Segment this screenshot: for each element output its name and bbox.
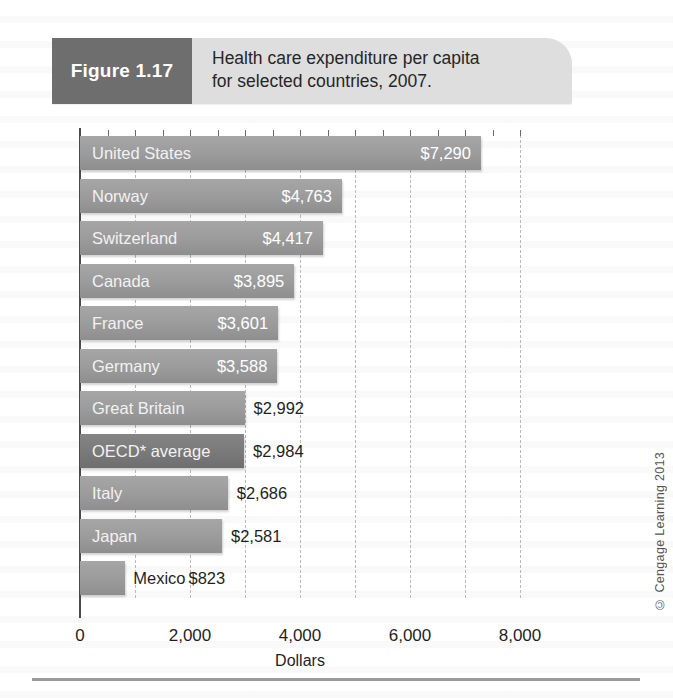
bar-category-label: Switzerland: [92, 221, 177, 255]
bar-row[interactable]: Japan$2,581: [80, 519, 520, 553]
bar-row[interactable]: OECD* average$2,984: [80, 434, 520, 468]
copyright-credit: © Cengage Learning 2013: [653, 452, 667, 611]
bar-value-label: $2,686: [237, 476, 287, 510]
bar-category-label: Italy: [92, 476, 122, 510]
x-tick-label: 0: [75, 626, 84, 646]
bar-category-label: United States: [92, 136, 191, 170]
bar-category-label: France: [92, 306, 143, 340]
x-tick-label: 6,000: [389, 626, 432, 646]
bar-value-label: $3,588: [217, 349, 267, 383]
figure-number-tag: Figure 1.17: [52, 38, 192, 104]
bar-category-label: OECD* average: [92, 434, 210, 468]
bar-category-label: Japan: [92, 519, 137, 553]
figure-container: Figure 1.17 Health care expenditure per …: [0, 0, 673, 698]
x-tick-label: 2,000: [169, 626, 212, 646]
bar-row[interactable]: Great Britain$2,992: [80, 391, 520, 425]
x-axis: 02,0004,0006,0008,000 Dollars: [0, 618, 600, 678]
figure-header: Figure 1.17 Health care expenditure per …: [52, 38, 572, 104]
bar-category-label: Mexico: [133, 561, 185, 595]
bar-row[interactable]: United States$7,290: [80, 136, 520, 170]
bar-category-label: Germany: [92, 349, 160, 383]
x-tick-label: 4,000: [279, 626, 322, 646]
bar-row[interactable]: Germany$3,588: [80, 349, 520, 383]
bar-row[interactable]: Mexico$823: [80, 561, 520, 595]
bar-category-label: Norway: [92, 179, 148, 213]
bar-value-label: $2,581: [231, 519, 281, 553]
x-axis-title: Dollars: [275, 652, 325, 670]
bar-value-label: $2,992: [254, 391, 304, 425]
plot-area: United States$7,290Norway$4,763Switzerla…: [80, 130, 520, 598]
bar-value-label: $2,984: [253, 434, 303, 468]
bar-row[interactable]: Norway$4,763: [80, 179, 520, 213]
bar-row[interactable]: France$3,601: [80, 306, 520, 340]
gridline-8000: [520, 130, 521, 598]
tick-8000: [520, 130, 521, 136]
bar-value-label: $823: [188, 561, 225, 595]
bottom-divider: [32, 678, 640, 681]
bar-row[interactable]: Canada$3,895: [80, 264, 520, 298]
bar-mexico[interactable]: [80, 561, 125, 595]
bar-row[interactable]: Italy$2,686: [80, 476, 520, 510]
bar-category-label: Great Britain: [92, 391, 185, 425]
x-tick-label: 8,000: [499, 626, 542, 646]
bar-value-label: $7,290: [420, 136, 470, 170]
bar-value-label: $4,417: [262, 221, 312, 255]
bar-chart: United States$7,290Norway$4,763Switzerla…: [0, 118, 600, 658]
bar-value-label: $3,601: [218, 306, 268, 340]
bar-value-label: $3,895: [234, 264, 284, 298]
bar-row[interactable]: Switzerland$4,417: [80, 221, 520, 255]
bar-value-label: $4,763: [282, 179, 332, 213]
figure-caption: Health care expenditure per capita for s…: [192, 38, 572, 104]
bar-category-label: Canada: [92, 264, 150, 298]
